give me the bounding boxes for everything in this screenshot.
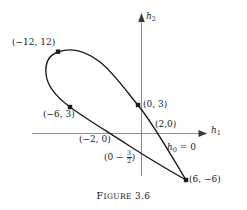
y-intercept-lower-suffix: ): [132, 152, 136, 162]
point-label-y-intercept-upper: (0, 3): [143, 100, 167, 109]
point-label-x-intercept-left: (−2, 0): [79, 135, 111, 144]
caption-word-rest: IGURE: [104, 192, 132, 201]
point-label-x-intercept-right: (2,0): [155, 120, 176, 129]
x-axis-arrowhead: [199, 130, 208, 137]
point-marker-bottom-right: [184, 178, 188, 182]
figure-container: h1 h2 (−12, 12) (−6, 3) (0, 3) (2,0) (−2…: [0, 0, 247, 210]
y-axis-arrowhead: [138, 13, 145, 22]
point-label-y-intercept-lower: (0 − 32): [104, 150, 135, 165]
point-marker-y-intercept-upper: [136, 103, 140, 107]
curve-label-eq: = 0: [177, 142, 196, 152]
y-axis-label-h1-wrapper: h1: [211, 126, 221, 136]
point-label-cusp-top-left: (−12, 12): [12, 38, 55, 47]
y-intercept-lower-prefix: (0 −: [104, 152, 127, 162]
curve-label-h0-equals-zero: h0 = 0: [167, 143, 196, 153]
point-label-bottom-right: (6, −6): [189, 175, 221, 184]
y-axis-label-sub: 2: [152, 15, 156, 23]
y-axis-label-h2-wrapper: h2: [146, 12, 156, 22]
point-label-left-mid: (−6, 3): [43, 110, 75, 119]
figure-caption: FIGURE3.6: [0, 190, 247, 201]
caption-first-letter: F: [97, 190, 104, 201]
point-marker-cusp-top-left: [56, 50, 60, 54]
x-axis-label-sub: 1: [217, 129, 221, 137]
caption-number: 3.6: [135, 191, 151, 201]
